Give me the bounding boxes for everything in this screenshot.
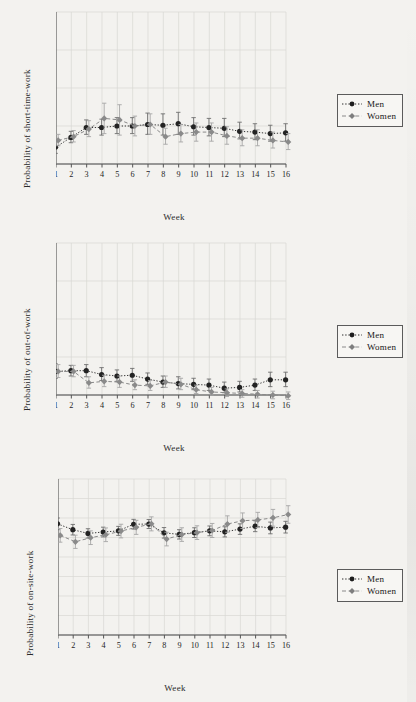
women-line-diamond-marker-icon — [342, 586, 362, 596]
svg-text:4: 4 — [102, 641, 106, 650]
y-axis-label-on-site-work: Probability of on-site-work — [25, 551, 35, 656]
svg-text:5: 5 — [117, 641, 121, 650]
men-line-circle-marker-icon — [342, 574, 362, 584]
plot-area-out-of-work: 0.05.1.15.212345678910111213141516 — [56, 239, 292, 421]
svg-text:6: 6 — [132, 641, 136, 650]
men-line-circle-marker-icon — [342, 330, 362, 340]
svg-text:7: 7 — [146, 170, 150, 179]
figure-page: Probability of short-time-work 0.05.1.15… — [0, 0, 416, 702]
svg-text:2: 2 — [69, 170, 73, 179]
svg-text:12: 12 — [221, 401, 229, 410]
chart-panel-short-time-work: Probability of short-time-work 0.05.1.15… — [0, 0, 416, 232]
plot-area-short-time-work: 0.05.1.15.212345678910111213141516 — [56, 8, 292, 190]
svg-text:15: 15 — [267, 170, 275, 179]
chart-svg-short-time-work: 0.05.1.15.212345678910111213141516 — [56, 8, 292, 190]
svg-text:15: 15 — [267, 401, 275, 410]
svg-text:7: 7 — [147, 641, 151, 650]
svg-text:14: 14 — [252, 641, 260, 650]
svg-text:16: 16 — [282, 170, 290, 179]
svg-text:1: 1 — [56, 170, 58, 179]
svg-text:14: 14 — [251, 401, 259, 410]
legend-label-men: Men — [366, 98, 384, 110]
svg-text:11: 11 — [205, 170, 213, 179]
legend-short-time-work: Men Women — [337, 94, 403, 127]
chart-panel-on-site-work: Probability of on-site-work 0.1.2.3.4.5.… — [0, 461, 416, 702]
x-axis-label-short-time-work: Week — [56, 212, 292, 222]
svg-text:8: 8 — [162, 641, 166, 650]
svg-text:10: 10 — [191, 641, 199, 650]
svg-text:9: 9 — [177, 170, 181, 179]
svg-text:13: 13 — [236, 401, 244, 410]
svg-text:8: 8 — [161, 170, 165, 179]
x-axis-label-out-of-work: Week — [56, 443, 292, 453]
svg-text:12: 12 — [221, 170, 229, 179]
svg-text:2: 2 — [71, 641, 75, 650]
chart-svg-on-site-work: 0.1.2.3.4.5.6.7.812345678910111213141516 — [58, 475, 292, 661]
legend-row-men: Men — [342, 329, 396, 341]
svg-text:10: 10 — [190, 170, 198, 179]
svg-text:4: 4 — [100, 401, 104, 410]
svg-text:16: 16 — [282, 401, 290, 410]
svg-text:13: 13 — [236, 641, 244, 650]
legend-label-women: Women — [366, 110, 396, 122]
svg-text:11: 11 — [205, 401, 213, 410]
svg-text:6: 6 — [131, 401, 135, 410]
svg-text:6: 6 — [131, 170, 135, 179]
women-line-diamond-marker-icon — [342, 111, 362, 121]
legend-row-men: Men — [342, 98, 396, 110]
chart-panel-out-of-work: Probability of out-of-work 0.05.1.15.212… — [0, 231, 416, 461]
legend-on-site-work: Men Women — [337, 569, 403, 602]
svg-text:2: 2 — [69, 401, 73, 410]
svg-text:4: 4 — [100, 170, 104, 179]
svg-text:1: 1 — [58, 641, 60, 650]
svg-text:14: 14 — [251, 170, 259, 179]
svg-text:12: 12 — [221, 641, 229, 650]
svg-text:9: 9 — [177, 401, 181, 410]
legend-out-of-work: Men Women — [337, 325, 403, 358]
svg-text:13: 13 — [236, 170, 244, 179]
svg-text:16: 16 — [282, 641, 290, 650]
legend-label-women: Women — [366, 585, 396, 597]
svg-text:9: 9 — [178, 641, 182, 650]
y-axis-label-out-of-work: Probability of out-of-work — [22, 308, 32, 411]
legend-row-women: Women — [342, 341, 396, 353]
svg-text:3: 3 — [85, 170, 89, 179]
legend-row-women: Women — [342, 585, 396, 597]
svg-text:10: 10 — [190, 401, 198, 410]
legend-row-women: Women — [342, 110, 396, 122]
men-line-circle-marker-icon — [342, 99, 362, 109]
plot-area-on-site-work: 0.1.2.3.4.5.6.7.812345678910111213141516 — [58, 475, 292, 661]
svg-text:5: 5 — [115, 401, 119, 410]
svg-text:1: 1 — [56, 401, 58, 410]
svg-text:5: 5 — [115, 170, 119, 179]
legend-label-women: Women — [366, 341, 396, 353]
legend-label-men: Men — [366, 329, 384, 341]
svg-text:15: 15 — [267, 641, 275, 650]
svg-text:11: 11 — [206, 641, 214, 650]
svg-text:8: 8 — [161, 401, 165, 410]
svg-text:7: 7 — [146, 401, 150, 410]
women-line-diamond-marker-icon — [342, 342, 362, 352]
legend-label-men: Men — [366, 573, 384, 585]
chart-svg-out-of-work: 0.05.1.15.212345678910111213141516 — [56, 239, 292, 421]
svg-text:3: 3 — [85, 401, 89, 410]
legend-row-men: Men — [342, 573, 396, 585]
y-axis-label-short-time-work: Probability of short-time-work — [22, 69, 32, 188]
svg-text:3: 3 — [86, 641, 90, 650]
x-axis-label-on-site-work: Week — [58, 683, 292, 693]
